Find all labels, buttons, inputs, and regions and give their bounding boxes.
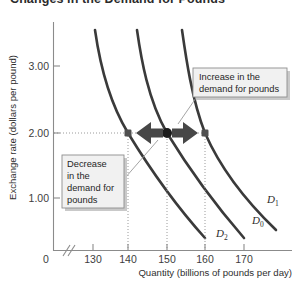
x-tick-label-150: 150 xyxy=(158,253,176,265)
x-origin-label: 0 xyxy=(43,253,49,265)
increase-arrow-icon xyxy=(172,122,198,144)
demand-curve-D1 xyxy=(182,30,276,230)
curve-label-D1: D1 xyxy=(266,193,279,208)
point-on-D0 xyxy=(162,128,172,138)
point-on-D2 xyxy=(125,130,132,137)
decrease-callout-line-1: Decrease xyxy=(67,159,107,169)
decrease-callout-line-3: demand for xyxy=(67,183,114,193)
point-on-D1 xyxy=(202,130,209,137)
x-tick-label-130: 130 xyxy=(84,253,102,265)
curve-label-D1-letter: D xyxy=(266,193,275,205)
y-axis-title: Exchange rate (dollars per pound) xyxy=(7,55,18,200)
x-tick-label-170: 170 xyxy=(235,253,253,265)
increase-callout-line-1: Increase in the xyxy=(199,72,260,82)
curve-label-D1-subscript: 1 xyxy=(275,199,279,208)
y-tick-label-3: 3.00 xyxy=(29,60,50,72)
curve-label-D2-letter: D xyxy=(215,227,224,239)
decrease-callout-line-2: in the xyxy=(67,171,90,181)
x-tick-label-160: 160 xyxy=(196,253,214,265)
increase-callout-leader xyxy=(178,98,196,124)
y-tick-label-1: 1.00 xyxy=(29,192,50,204)
chart-svg: 3.00 2.00 1.00 0 130 140 150 160 170 Exc… xyxy=(0,0,299,284)
curve-label-D2: D2 xyxy=(215,227,228,242)
decrease-arrow-icon xyxy=(136,122,163,144)
figure-container: Changes in the Demand for Pounds 3.00 2.… xyxy=(0,0,299,284)
y-tick-label-2: 2.00 xyxy=(29,127,50,139)
increase-callout-line-2: demand for pounds xyxy=(199,84,279,94)
curve-label-D0-letter: D xyxy=(251,214,260,226)
decrease-callout-line-4: pounds xyxy=(67,195,98,205)
curve-label-D0-subscript: 0 xyxy=(260,220,264,229)
curve-label-D2-subscript: 2 xyxy=(224,233,228,242)
x-axis-title: Quantity (billions of pounds per day) xyxy=(138,267,292,278)
x-tick-label-140: 140 xyxy=(119,253,137,265)
